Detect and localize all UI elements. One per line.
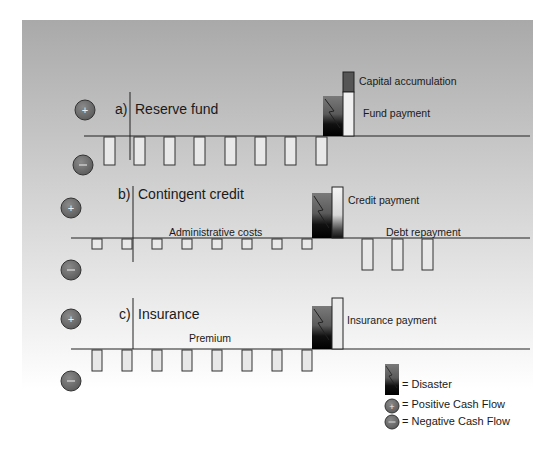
minus-circle-icon: [61, 260, 81, 280]
panel-a-title: Reserve fund: [135, 101, 218, 117]
premium-label: Premium: [189, 332, 231, 344]
fund-payment-bar: [343, 92, 354, 136]
plus-circle-icon: +: [61, 198, 81, 218]
insurance-payment-label: Insurance payment: [347, 314, 436, 326]
panel-a-letter: a): [115, 101, 127, 117]
negative-flow-bars: [104, 137, 327, 165]
credit-payment-bar: [332, 187, 343, 238]
panel-c-title: Insurance: [138, 306, 199, 322]
legend-disaster-label: = Disaster: [402, 378, 452, 390]
capital-accumulation-block: [343, 72, 354, 92]
panel-b-title: Contingent credit: [138, 186, 244, 202]
panel-a: +: [73, 72, 530, 175]
panel-c: +: [61, 298, 530, 391]
administrative-cost-bars: [92, 239, 312, 249]
legend-positive-label: = Positive Cash Flow: [402, 398, 505, 410]
positive-cash-flow-icon: +: [385, 399, 399, 413]
svg-text:+: +: [68, 202, 74, 214]
panel-c-letter: c): [119, 306, 131, 322]
fund-payment-label: Fund payment: [363, 107, 430, 119]
negative-cash-flow-icon: [385, 415, 399, 429]
insurance-payment-bar: [332, 298, 343, 349]
administrative-costs-label: Administrative costs: [169, 226, 262, 238]
svg-text:+: +: [389, 402, 394, 412]
plus-circle-icon: +: [75, 100, 95, 120]
panel-b-letter: b): [118, 186, 130, 202]
disaster-icon: [312, 193, 332, 238]
svg-text:+: +: [82, 104, 88, 116]
plus-circle-icon: +: [61, 309, 81, 329]
cash-flow-diagram: + +: [0, 0, 552, 454]
premium-bars: [92, 350, 312, 371]
svg-text:+: +: [68, 313, 74, 325]
debt-repayment-bars: [362, 239, 433, 270]
legend-negative-label: = Negative Cash Flow: [402, 415, 510, 427]
disaster-legend-icon: [385, 364, 399, 395]
minus-circle-icon: [61, 371, 81, 391]
credit-payment-label: Credit payment: [348, 194, 419, 206]
minus-circle-icon: [73, 155, 93, 175]
legend: +: [385, 364, 399, 429]
capital-accumulation-label: Capital accumulation: [359, 75, 456, 87]
disaster-icon: [312, 306, 332, 349]
debt-repayment-label: Debt repayment: [386, 226, 461, 238]
disaster-icon: [323, 96, 343, 136]
